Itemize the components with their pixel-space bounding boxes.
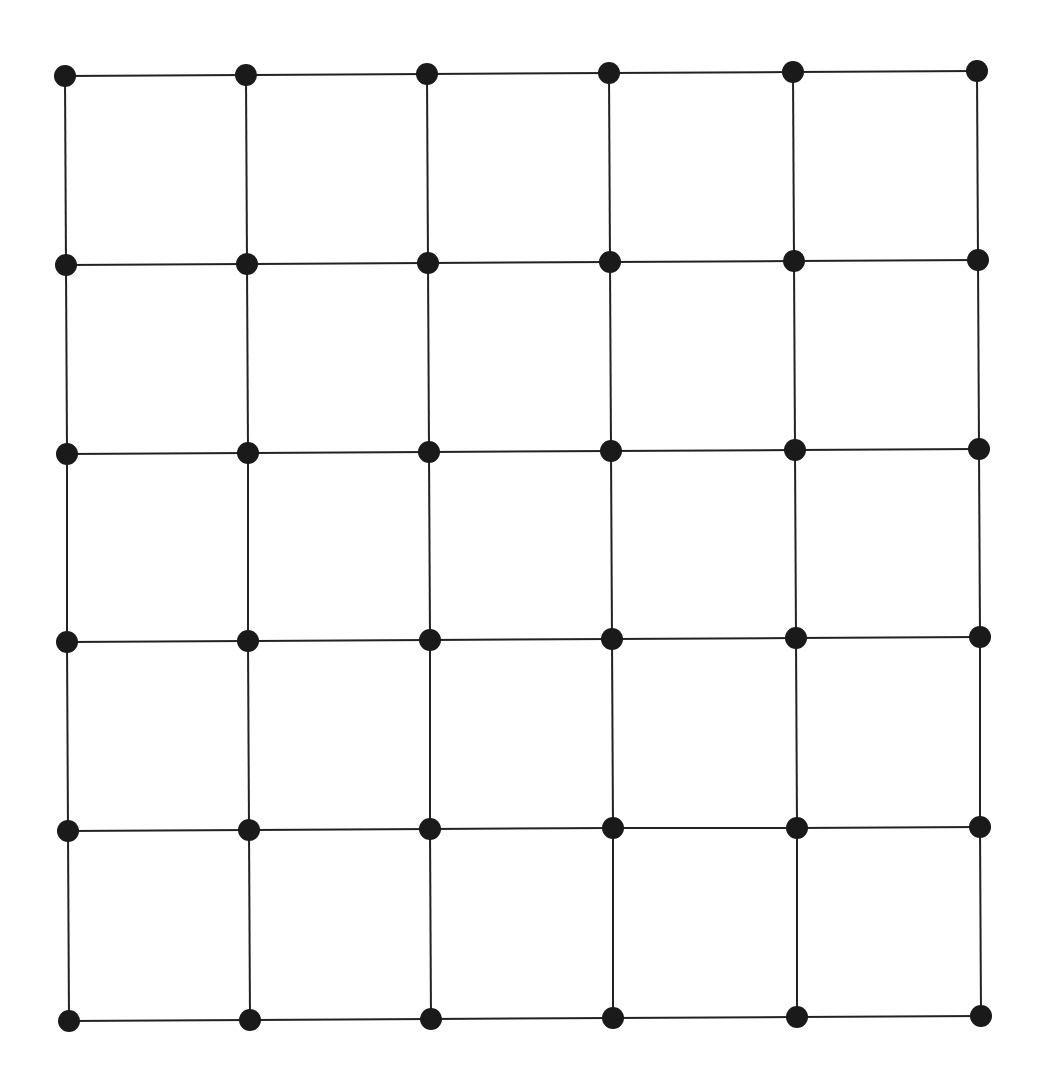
edge-v-0-2 (427, 74, 428, 263)
edge-h-4-2 (430, 828, 613, 829)
node-4-2 (419, 818, 441, 840)
node-1-2 (417, 252, 439, 274)
node-2-4 (784, 439, 806, 461)
edge-h-3-1 (248, 640, 430, 641)
node-2-1 (237, 442, 259, 464)
node-4-5 (969, 816, 991, 838)
edge-h-1-3 (610, 261, 794, 262)
edge-h-5-0 (69, 1020, 250, 1021)
edge-h-2-2 (429, 451, 611, 452)
edge-h-3-0 (67, 641, 248, 642)
node-5-0 (58, 1010, 80, 1032)
node-2-2 (418, 441, 440, 463)
edge-v-1-1 (247, 264, 248, 453)
node-0-2 (416, 63, 438, 85)
node-5-2 (420, 1008, 442, 1030)
edge-h-3-3 (612, 638, 796, 639)
node-3-3 (601, 628, 623, 650)
edge-h-4-4 (797, 827, 980, 828)
node-0-3 (598, 62, 620, 84)
edge-h-2-3 (611, 450, 795, 451)
edge-h-2-0 (67, 453, 248, 454)
edge-v-0-5 (977, 71, 978, 260)
node-1-1 (236, 253, 258, 275)
edge-h-2-4 (795, 449, 979, 450)
edge-v-3-3 (612, 639, 613, 828)
node-5-4 (786, 1006, 808, 1028)
edge-v-1-5 (978, 260, 979, 449)
nodes-group (54, 60, 992, 1032)
edge-h-1-4 (794, 260, 978, 261)
node-0-0 (54, 65, 76, 87)
node-0-5 (966, 60, 988, 82)
edge-h-1-2 (428, 262, 610, 263)
node-3-0 (56, 631, 78, 653)
edge-v-3-0 (67, 642, 68, 831)
node-5-1 (239, 1009, 261, 1031)
edge-v-1-2 (428, 263, 429, 452)
edges-group (65, 71, 981, 1021)
node-0-4 (782, 61, 804, 83)
node-2-3 (600, 440, 622, 462)
edge-v-1-3 (610, 262, 611, 451)
node-2-0 (56, 443, 78, 465)
node-3-2 (419, 629, 441, 651)
edge-v-0-4 (793, 72, 794, 261)
node-3-1 (237, 630, 259, 652)
node-1-4 (783, 250, 805, 272)
edge-h-0-0 (65, 75, 246, 76)
node-4-3 (602, 817, 624, 839)
edge-h-1-1 (247, 263, 428, 264)
node-5-3 (602, 1007, 624, 1029)
node-1-3 (599, 251, 621, 273)
edge-v-4-5 (980, 827, 981, 1016)
edge-h-5-4 (797, 1016, 981, 1017)
edge-v-3-4 (796, 638, 797, 828)
edge-h-3-2 (430, 639, 612, 640)
node-2-5 (968, 438, 990, 460)
edge-h-1-0 (66, 264, 247, 265)
edge-h-5-1 (250, 1019, 431, 1020)
edge-h-0-3 (609, 72, 793, 73)
node-3-5 (969, 626, 991, 648)
edge-h-4-1 (249, 829, 430, 830)
edge-v-0-0 (65, 76, 66, 265)
edge-v-1-4 (794, 261, 795, 450)
node-4-0 (57, 820, 79, 842)
edge-h-0-4 (793, 71, 977, 72)
grid-graph-diagram (0, 0, 1045, 1083)
node-3-4 (785, 627, 807, 649)
edge-v-1-0 (66, 265, 67, 454)
edge-v-2-3 (611, 451, 612, 639)
edge-h-0-2 (427, 73, 609, 74)
node-5-5 (970, 1005, 992, 1027)
edge-v-2-4 (795, 450, 796, 638)
edge-v-4-0 (68, 831, 69, 1021)
edge-v-0-1 (246, 75, 247, 264)
node-4-4 (786, 817, 808, 839)
edge-h-5-2 (431, 1018, 613, 1019)
edge-v-2-2 (429, 452, 430, 640)
edge-h-2-1 (248, 452, 429, 453)
edge-v-3-1 (248, 641, 249, 830)
node-1-0 (55, 254, 77, 276)
edge-v-4-2 (430, 829, 431, 1019)
node-4-1 (238, 819, 260, 841)
edge-h-4-0 (68, 830, 249, 831)
edge-v-4-1 (249, 830, 250, 1020)
edge-h-5-3 (613, 1017, 797, 1018)
edge-v-0-3 (609, 73, 610, 262)
edge-v-2-5 (979, 449, 980, 637)
node-1-5 (967, 249, 989, 271)
edge-h-3-4 (796, 637, 980, 638)
node-0-1 (235, 64, 257, 86)
edge-h-0-1 (246, 74, 427, 75)
